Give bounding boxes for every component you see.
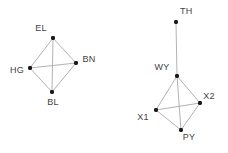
graph-edge-X2-PY bbox=[181, 103, 200, 130]
graph-node-X1[interactable] bbox=[154, 108, 158, 112]
graph-node-label-HG: HG bbox=[10, 65, 24, 75]
graph-edge-TH-WY bbox=[176, 22, 177, 76]
graph-svg: ELHGBNBLTHWYX2X1PY bbox=[0, 0, 228, 153]
graph-edge-WY-PY bbox=[177, 76, 181, 130]
graph-edge-HG-BL bbox=[30, 68, 52, 92]
graph-node-EL[interactable] bbox=[51, 36, 55, 40]
diagram-canvas: ELHGBNBLTHWYX2X1PY bbox=[0, 0, 228, 153]
edges-layer bbox=[30, 22, 200, 130]
graph-edge-EL-BN bbox=[53, 38, 76, 63]
graph-edge-WY-X1 bbox=[156, 76, 177, 110]
graph-node-X2[interactable] bbox=[198, 101, 202, 105]
graph-node-label-EL: EL bbox=[35, 23, 46, 33]
graph-node-label-BL: BL bbox=[47, 97, 58, 107]
graph-edge-EL-BL bbox=[52, 38, 53, 92]
graph-node-label-WY: WY bbox=[155, 62, 170, 72]
graph-edge-EL-HG bbox=[30, 38, 53, 68]
graph-node-BN[interactable] bbox=[74, 61, 78, 65]
graph-node-HG[interactable] bbox=[28, 66, 32, 70]
graph-edge-X1-X2 bbox=[156, 103, 200, 110]
graph-edge-X1-PY bbox=[156, 110, 181, 130]
labels-layer: ELHGBNBLTHWYX2X1PY bbox=[10, 6, 215, 142]
graph-node-label-X1: X1 bbox=[137, 112, 148, 122]
graph-node-WY[interactable] bbox=[175, 74, 179, 78]
graph-node-label-X2: X2 bbox=[203, 91, 214, 101]
graph-node-label-TH: TH bbox=[180, 6, 192, 16]
graph-edge-WY-X2 bbox=[177, 76, 200, 103]
graph-edge-BN-BL bbox=[52, 63, 76, 92]
graph-node-TH[interactable] bbox=[174, 20, 178, 24]
graph-node-label-PY: PY bbox=[183, 132, 195, 142]
graph-node-label-BN: BN bbox=[83, 54, 96, 64]
graph-node-BL[interactable] bbox=[50, 90, 54, 94]
